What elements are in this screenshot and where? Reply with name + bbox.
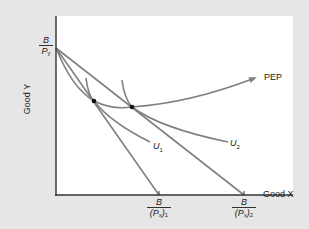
pep-diagram: B Py Good Y B (Px)1 B (Px)2 Good X PEP U… (0, 0, 309, 229)
x-intercept-2-denominator: (Px)2 (231, 208, 257, 220)
tangency-point-1 (92, 99, 97, 104)
indifference-curve-u1 (86, 78, 150, 142)
x-axis-label: Good X (263, 189, 294, 199)
budget-line-2 (56, 48, 244, 195)
x-intercept-1-denominator: (Px)1 (146, 208, 172, 220)
tangency-point-2 (130, 105, 135, 110)
y-axis-label: Good Y (22, 74, 32, 124)
budget-line-1 (56, 48, 159, 195)
indifference-curve-u2 (122, 80, 228, 142)
y-intercept-label: B Py (38, 35, 54, 58)
y-intercept-numerator: B (38, 35, 54, 45)
x-intercept-label-2: B (Px)2 (231, 197, 257, 220)
x-intercept-label-1: B (Px)1 (146, 197, 172, 220)
price-expansion-path (56, 48, 255, 108)
pep-label: PEP (264, 72, 282, 82)
u1-label: U1 (153, 141, 163, 153)
x-intercept-1-numerator: B (146, 197, 172, 207)
x-intercept-2-numerator: B (231, 197, 257, 207)
y-intercept-denominator: Py (38, 46, 54, 58)
u2-label: U2 (230, 138, 240, 150)
